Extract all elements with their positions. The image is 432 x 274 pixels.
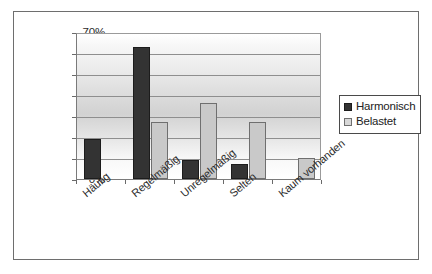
chart-legend: HarmonischBelastet bbox=[339, 95, 421, 134]
x-axis-tick-mark bbox=[125, 180, 126, 184]
bar-group bbox=[77, 34, 126, 179]
legend-item-label: Belastet bbox=[356, 116, 396, 128]
x-axis-tick-mark bbox=[321, 180, 322, 184]
plot-area bbox=[76, 33, 321, 180]
chart-frame: 70%60%50%40%30%20%10%0% HäufigRegelmäßig… bbox=[13, 11, 419, 260]
x-axis-tick-mark bbox=[272, 180, 273, 184]
legend-item-label: Harmonisch bbox=[356, 101, 415, 113]
legend-swatch-icon bbox=[344, 103, 352, 111]
x-axis-tick-mark bbox=[174, 180, 175, 184]
x-axis-tick-mark bbox=[223, 180, 224, 184]
bar-belastet bbox=[249, 122, 266, 179]
x-axis-tick-mark bbox=[76, 180, 77, 184]
legend-swatch-icon bbox=[344, 118, 352, 126]
legend-item: Belastet bbox=[344, 114, 415, 129]
bar-harmonisch bbox=[133, 47, 150, 179]
legend-item: Harmonisch bbox=[344, 99, 415, 114]
